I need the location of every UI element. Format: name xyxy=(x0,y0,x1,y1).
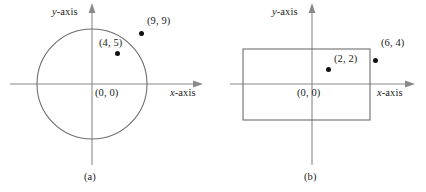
y-axis-label-b: y-axis xyxy=(272,7,298,18)
data-point-label-4-5: (4, 5) xyxy=(99,38,122,49)
data-point-label-9-9: (9, 9) xyxy=(147,16,170,27)
x-axis-arrowhead-icon xyxy=(405,81,415,88)
panel-a: y-axis x-axis (0, 0) (4, 5) (9, 9) (a) xyxy=(0,0,213,192)
y-axis-arrowhead-icon xyxy=(309,3,316,13)
data-point-label-6-4: (6, 4) xyxy=(381,38,404,49)
x-axis-label-b: x-axis xyxy=(377,88,403,99)
origin-label-b: (0, 0) xyxy=(297,88,320,99)
data-point-dot-2-2 xyxy=(326,67,331,72)
origin-label-a: (0, 0) xyxy=(95,88,118,99)
data-point-dot-9-9 xyxy=(139,31,144,36)
data-point-label-2-2: (2, 2) xyxy=(334,54,357,65)
figure-container: y-axis x-axis (0, 0) (4, 5) (9, 9) (a) xyxy=(0,0,426,192)
y-axis-arrowhead-icon xyxy=(89,3,96,13)
panel-a-caption: (a) xyxy=(84,172,96,183)
data-point-dot-6-4 xyxy=(373,58,378,63)
y-axis-label-a: y-axis xyxy=(52,7,78,18)
panel-b-caption: (b) xyxy=(304,172,317,183)
panel-b: y-axis x-axis (0, 0) (2, 2) (6, 4) (b) xyxy=(213,0,426,192)
data-point-dot-4-5 xyxy=(115,51,120,56)
x-axis-label-a: x-axis xyxy=(170,88,196,99)
